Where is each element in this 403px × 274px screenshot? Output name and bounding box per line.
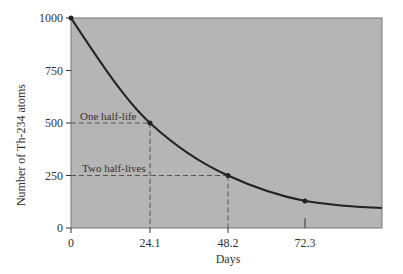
y-tick-250: 250 — [45, 169, 63, 183]
y-tick-750: 750 — [45, 64, 63, 78]
decay-chart: 1000 750 500 250 0 0 24.1 48.2 72.3 Days… — [0, 0, 403, 274]
plot-area — [71, 18, 382, 228]
y-tick-1000: 1000 — [39, 11, 63, 25]
x-tick-48.2: 48.2 — [218, 236, 239, 250]
y-tick-500: 500 — [45, 116, 63, 130]
two-half-lives-label: Two half-lives — [82, 162, 146, 174]
x-tick-24.1: 24.1 — [140, 236, 161, 250]
x-tick-72.3: 72.3 — [295, 236, 316, 250]
one-half-life-label: One half-life — [80, 110, 137, 122]
y-axis-title: Number of Th-234 atoms — [14, 84, 28, 206]
y-axis — [66, 18, 71, 228]
x-tick-0: 0 — [68, 236, 74, 250]
y-tick-0: 0 — [57, 221, 63, 235]
x-axis-title: Days — [216, 252, 241, 266]
